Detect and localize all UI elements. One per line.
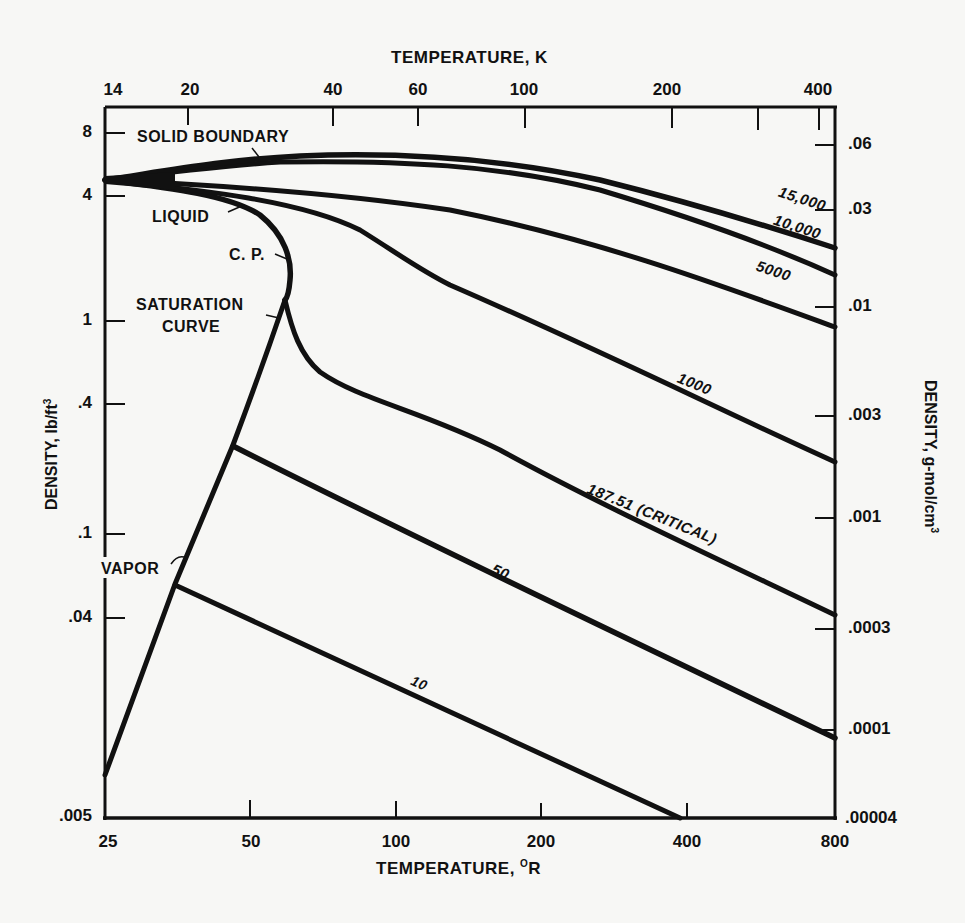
right-tick-label: .0003 bbox=[848, 618, 891, 638]
left-axis-title-text: DENSITY, lb/ft bbox=[43, 404, 60, 510]
right-tick-label: .003 bbox=[848, 405, 881, 425]
bottom-axis-title-unit: R bbox=[528, 859, 541, 878]
left-tick-label: 8 bbox=[83, 122, 92, 142]
bottom-axis-ticks bbox=[250, 800, 687, 818]
bottom-tick-label: 100 bbox=[382, 832, 410, 852]
bottom-axis-title: TEMPERATURE, OR bbox=[376, 858, 541, 879]
isobar-50 bbox=[233, 446, 835, 738]
top-tick-label: 20 bbox=[181, 80, 200, 100]
right-tick-label: .03 bbox=[848, 199, 872, 219]
bottom-axis-title-text: TEMPERATURE, bbox=[376, 859, 520, 878]
top-tick-label: 400 bbox=[804, 80, 832, 100]
annotation-solid-boundary: SOLID BOUNDARY bbox=[137, 128, 289, 146]
bottom-tick-label: 200 bbox=[527, 832, 555, 852]
saturation-vapor-curve bbox=[105, 300, 285, 775]
annotation-critical-point: C. P. bbox=[229, 246, 265, 264]
top-tick-label: 60 bbox=[409, 80, 428, 100]
top-tick-label: 40 bbox=[324, 80, 343, 100]
right-tick-label: .06 bbox=[848, 134, 872, 154]
right-tick-label: .01 bbox=[848, 296, 872, 316]
solid-boundary-wedge bbox=[105, 172, 175, 190]
bottom-tick-label: 400 bbox=[673, 832, 701, 852]
bottom-tick-label: 50 bbox=[242, 832, 261, 852]
right-axis-title-sup: 3 bbox=[929, 528, 940, 534]
annotation-liquid: LIQUID bbox=[152, 208, 209, 226]
isobar-critical bbox=[285, 300, 835, 615]
left-axis-title: DENSITY, lb/ft3 bbox=[42, 399, 61, 510]
left-tick-label: .1 bbox=[78, 523, 92, 543]
left-tick-label: .04 bbox=[68, 607, 92, 627]
right-tick-label: .001 bbox=[848, 507, 881, 527]
right-tick-label: .0001 bbox=[848, 719, 891, 739]
left-axis-ticks bbox=[105, 133, 125, 618]
right-axis-title: DENSITY, g-mol/cm3 bbox=[921, 380, 940, 533]
top-axis-title: TEMPERATURE, K bbox=[391, 48, 548, 68]
top-tick-label: 100 bbox=[510, 80, 538, 100]
top-axis-ticks bbox=[188, 107, 819, 130]
left-tick-label: 4 bbox=[83, 185, 92, 205]
left-tick-label: .4 bbox=[78, 393, 92, 413]
isobar-10000 bbox=[105, 162, 835, 275]
top-tick-label: 14 bbox=[104, 80, 123, 100]
isobar-10 bbox=[175, 585, 680, 818]
top-tick-label: 200 bbox=[653, 80, 681, 100]
bottom-tick-label: 25 bbox=[99, 832, 118, 852]
left-tick-label: 1 bbox=[83, 310, 92, 330]
left-axis-title-sup: 3 bbox=[42, 399, 53, 405]
right-axis-title-text: DENSITY, g-mol/cm bbox=[922, 380, 939, 528]
right-tick-label: .00004 bbox=[845, 808, 897, 828]
annotation-saturation: SATURATION bbox=[136, 296, 244, 314]
bottom-tick-label: 800 bbox=[821, 832, 849, 852]
left-tick-label: .005 bbox=[59, 806, 92, 826]
annotation-saturation-curve: CURVE bbox=[162, 318, 220, 336]
annotation-vapor: VAPOR bbox=[101, 560, 159, 578]
